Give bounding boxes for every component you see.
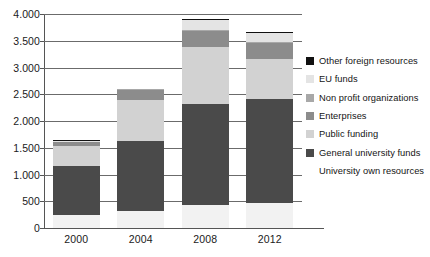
- bar-segment[interactable]: [182, 30, 229, 31]
- bar-segment[interactable]: [246, 42, 293, 43]
- legend-item[interactable]: General university funds: [306, 143, 430, 161]
- bar-segment[interactable]: [246, 33, 293, 42]
- chart-legend: Other foreign resourcesEU fundsNon profi…: [306, 52, 430, 180]
- bar-segment[interactable]: [53, 141, 100, 142]
- legend-item[interactable]: Enterprises: [306, 107, 430, 125]
- legend-item-label: Non profit organizations: [319, 93, 418, 103]
- legend-item-label: Other foreign resources: [319, 56, 418, 66]
- legend-swatch-icon: [306, 75, 314, 83]
- bar-2012[interactable]: [246, 32, 293, 228]
- bar-segment[interactable]: [53, 142, 100, 146]
- y-axis-tick-label: 1.500: [13, 142, 40, 154]
- legend-item[interactable]: University own resources: [306, 162, 430, 180]
- y-axis-tick-label: 500: [22, 195, 40, 207]
- bar-segment[interactable]: [246, 32, 293, 33]
- bar-segment[interactable]: [182, 20, 229, 29]
- bar-2000[interactable]: [53, 140, 100, 228]
- bar-segment[interactable]: [117, 89, 164, 90]
- y-axis-tick-mark: [40, 175, 44, 176]
- y-axis-tick-label: 3.000: [13, 62, 40, 74]
- y-axis-tick-mark: [40, 68, 44, 69]
- bar-segment[interactable]: [182, 19, 229, 20]
- bar-segment[interactable]: [246, 99, 293, 203]
- legend-swatch-icon: [306, 130, 314, 138]
- bar-segment[interactable]: [53, 146, 100, 165]
- y-axis-tick-mark: [40, 148, 44, 149]
- y-axis-tick-label: 1.000: [13, 169, 40, 181]
- y-axis-tick-mark: [40, 94, 44, 95]
- bar-segment[interactable]: [182, 104, 229, 206]
- legend-swatch-icon: [306, 167, 314, 175]
- plot-area: [44, 14, 302, 228]
- bar-segment[interactable]: [182, 205, 229, 228]
- legend-swatch-icon: [306, 94, 314, 102]
- legend-swatch-icon: [306, 149, 314, 157]
- legend-item[interactable]: EU funds: [306, 70, 430, 88]
- y-axis-tick-mark: [40, 228, 44, 229]
- legend-item[interactable]: Non profit organizations: [306, 89, 430, 107]
- bar-segment[interactable]: [182, 31, 229, 47]
- bar-segment[interactable]: [117, 100, 164, 141]
- y-axis-tick-label: 2.000: [13, 115, 40, 127]
- x-axis-line: [44, 228, 324, 229]
- bar-segment[interactable]: [117, 141, 164, 211]
- legend-item-label: Public funding: [319, 129, 378, 139]
- legend-item-label: General university funds: [319, 148, 420, 158]
- legend-item-label: Enterprises: [319, 111, 367, 121]
- bar-segment[interactable]: [53, 215, 100, 228]
- legend-item-label: University own resources: [319, 166, 424, 176]
- bar-2004[interactable]: [117, 89, 164, 228]
- y-axis-tick-label: 3.500: [13, 35, 40, 47]
- legend-item[interactable]: Public funding: [306, 125, 430, 143]
- legend-swatch-icon: [306, 112, 314, 120]
- bar-segment[interactable]: [246, 59, 293, 99]
- bar-segment[interactable]: [182, 47, 229, 104]
- bar-segment[interactable]: [53, 141, 100, 142]
- bar-segment[interactable]: [117, 89, 164, 100]
- legend-swatch-icon: [306, 57, 314, 65]
- bar-2008[interactable]: [182, 19, 229, 228]
- y-axis-tick-label: 2.500: [13, 88, 40, 100]
- bar-segment[interactable]: [117, 211, 164, 228]
- y-axis-tick-label: 4.000: [13, 8, 40, 20]
- bar-segment[interactable]: [246, 203, 293, 228]
- x-axis-tick-label: 2012: [230, 233, 310, 245]
- legend-item-label: EU funds: [319, 74, 358, 84]
- y-axis-tick-mark: [40, 14, 44, 15]
- y-axis-labels: 05001.0001.5002.0002.5003.0003.5004.000: [0, 14, 40, 229]
- stacked-bar-chart: 05001.0001.5002.0002.5003.0003.5004.000 …: [0, 0, 430, 257]
- y-axis-tick-mark: [40, 121, 44, 122]
- bar-segment[interactable]: [246, 43, 293, 59]
- bar-segment[interactable]: [53, 166, 100, 215]
- legend-item[interactable]: Other foreign resources: [306, 52, 430, 70]
- gridline: [44, 14, 302, 15]
- y-axis-tick-mark: [40, 41, 44, 42]
- y-axis-tick-mark: [40, 201, 44, 202]
